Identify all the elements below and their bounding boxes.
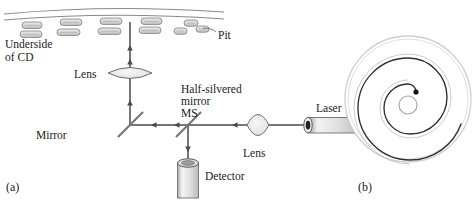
label-mirror: Mirror [36,129,67,141]
cd-pits-group [20,18,209,38]
label-half-silvered-line2: mirror [181,95,211,107]
pit [60,19,82,26]
pit [20,31,42,38]
label-panel-a: (a) [6,180,19,194]
detector [178,159,199,198]
figure-cd-optical-pickup: Underside of CD Pit Lens Mirror Half-sil… [0,0,473,205]
lens-objective [108,68,152,79]
label-lens-collimating: Lens [243,147,266,159]
pit [98,28,121,35]
beam-ms-to-detector [185,125,191,164]
figure-canvas: Underside of CD Pit Lens Mirror Half-sil… [0,0,473,205]
pit [141,18,162,25]
label-detector: Detector [205,170,245,182]
pit [184,20,198,26]
pit [57,29,80,36]
pit [100,18,122,25]
label-half-silvered-line1: Half-silvered [181,83,242,95]
label-panel-b: (b) [358,180,372,194]
label-lens-objective: Lens [74,68,97,80]
label-pit: Pit [218,29,232,41]
beam-horizontal [130,122,308,128]
label-underside-of-cd-line2: of CD [5,51,33,63]
pit [196,26,209,32]
cd-center-hole [399,96,417,114]
lens-collimating [247,115,269,136]
label-laser: Laser [316,102,342,114]
label-half-silvered-ms: MS [181,107,198,119]
pit [174,28,187,34]
pit [22,22,42,29]
spiral-start-dot [413,89,418,94]
cd-disc-panel-b [345,36,471,164]
label-underside-of-cd-line1: Underside [5,38,52,50]
pit [139,27,161,34]
